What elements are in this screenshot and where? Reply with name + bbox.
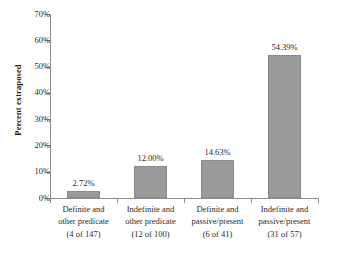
category-label-line: (4 of 147)	[46, 228, 121, 240]
y-axis-tick-label: 0%	[10, 194, 50, 203]
x-axis-category-label: Indefinite andpassive/present(31 of 57)	[247, 203, 322, 240]
y-axis-tick-label: 50%	[10, 62, 50, 71]
category-label-line: passive/present	[247, 215, 322, 227]
y-axis-tick-label: 40%	[10, 88, 50, 97]
category-label-line: Definite and	[180, 203, 255, 215]
bar-chart: Percent extraposed 70%60%50%40%30%20%10%…	[0, 0, 339, 256]
category-label-line: (31 of 57)	[247, 228, 322, 240]
x-axis-tick	[117, 198, 118, 203]
y-axis-tick-label: 10%	[10, 167, 50, 176]
category-label-line: other predicate	[46, 215, 121, 227]
y-axis-tick-label: 70%	[10, 10, 50, 19]
category-label-line: Definite and	[46, 203, 121, 215]
category-label-line: Indefinite and	[247, 203, 322, 215]
category-label-line: Indefinite and	[113, 203, 188, 215]
y-axis-ticks: 70%60%50%40%30%20%10%0%	[0, 0, 50, 256]
category-label-line: other predicate	[113, 215, 188, 227]
category-label-line: (6 of 41)	[180, 228, 255, 240]
bar-value-label: 14.63%	[188, 148, 248, 157]
bar-value-label: 12.00%	[121, 154, 181, 163]
y-axis-tick-label: 20%	[10, 141, 50, 150]
category-label-line: passive/present	[180, 215, 255, 227]
y-axis-tick-label: 30%	[10, 115, 50, 124]
bar	[67, 191, 100, 198]
x-axis-tick	[251, 198, 252, 203]
category-label-line: (12 of 100)	[113, 228, 188, 240]
bar	[134, 166, 167, 198]
bar-value-label: 2.72%	[54, 179, 114, 188]
x-axis-category-label: Indefinite andother predicate(12 of 100)	[113, 203, 188, 240]
bar	[268, 55, 301, 198]
x-axis-tick	[50, 198, 51, 203]
plot-area: 2.72%12.00%14.63%54.39%	[50, 14, 318, 198]
bar	[201, 160, 234, 198]
x-axis-tick	[318, 198, 319, 203]
x-axis-tick	[184, 198, 185, 203]
x-axis-category-label: Definite andother predicate(4 of 147)	[46, 203, 121, 240]
bar-value-label: 54.39%	[255, 43, 315, 52]
x-axis-category-label: Definite andpassive/present(6 of 41)	[180, 203, 255, 240]
y-axis-tick-label: 60%	[10, 36, 50, 45]
